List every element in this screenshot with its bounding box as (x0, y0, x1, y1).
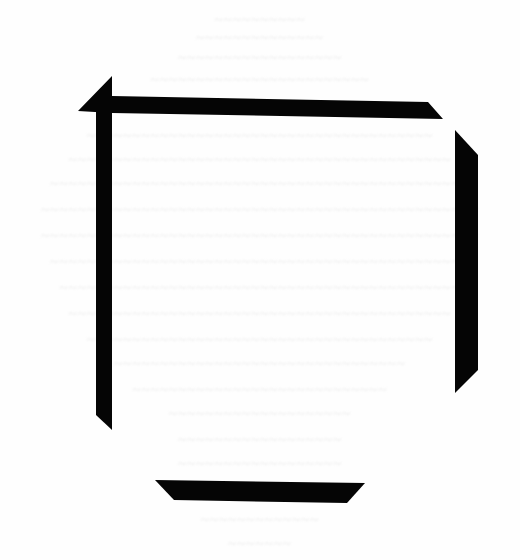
bottom-bar (155, 480, 365, 503)
scanned-page: ~~~~~~~~~~~~~~~~~~~~~~~~~~~~~~~~~~~~~~~~… (0, 0, 520, 560)
left-bar (96, 96, 112, 430)
top-bar (78, 76, 443, 119)
right-bar (455, 130, 478, 393)
black-frame-bars (0, 0, 520, 560)
